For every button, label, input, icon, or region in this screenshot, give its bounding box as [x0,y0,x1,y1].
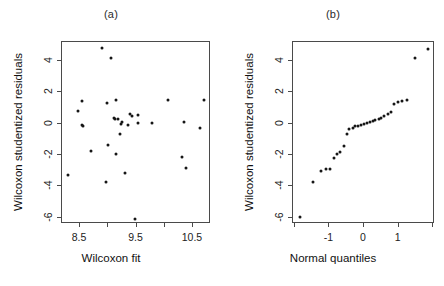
data-point [137,114,140,117]
x-tick [363,223,364,227]
panel-b-plot-frame [292,41,434,223]
x-tick [136,223,137,227]
y-tick [57,91,61,92]
panel-b-label: (b) [222,8,444,20]
y-tick [288,185,292,186]
panel-b-plot-area [293,42,433,222]
data-point [203,99,206,102]
data-point [67,173,70,176]
data-point [136,121,139,124]
data-point [116,117,119,120]
y-tick-label: -4 [273,181,285,190]
data-point [405,99,408,102]
data-point [82,125,85,128]
data-point [401,99,404,102]
x-tick-minor [164,223,165,227]
y-tick [57,123,61,124]
data-point [339,150,342,153]
y-tick [288,60,292,61]
x-tick-minor [432,223,433,227]
y-tick [288,217,292,218]
panel-a-xlabel: Wilcoxon fit [0,252,222,264]
data-point [332,156,335,159]
y-tick-label: -6 [273,212,285,221]
y-tick [288,123,292,124]
y-tick [57,185,61,186]
panel-a-ylabel: Wilcoxon studentized residuals [12,53,24,211]
data-point [393,102,396,105]
data-point [185,167,188,170]
y-tick [57,60,61,61]
data-point [115,153,118,156]
data-point [130,115,133,118]
data-point [320,170,323,173]
y-tick-label: 0 [42,120,54,126]
data-point [127,124,130,127]
data-point [335,152,338,155]
x-tick [328,223,329,227]
data-point [298,215,301,218]
data-point [342,144,345,147]
y-tick [57,154,61,155]
x-tick-label: 9.5 [128,231,143,243]
panel-residuals-vs-fit: (a) Wilcoxon studentized residuals Wilco… [0,0,222,286]
panel-a-label: (a) [0,8,222,20]
y-tick [288,91,292,92]
data-point [124,172,127,175]
y-tick-label: -4 [42,181,54,190]
data-point [166,99,169,102]
panel-b-xlabel: Normal quantiles [222,252,444,264]
data-point [90,149,93,152]
x-tick-minor [107,223,108,227]
x-tick-label: 10.5 [182,231,202,243]
data-point [345,133,348,136]
data-point [311,180,314,183]
panel-a-plot-area [62,42,209,222]
data-point [100,46,103,49]
x-tick-label: 0 [360,231,366,243]
panel-a-plot-frame [61,41,210,223]
data-point [121,121,124,124]
data-point [118,132,121,135]
x-tick-label: 8.5 [72,231,87,243]
data-point [182,120,185,123]
data-point [386,113,389,116]
x-tick [79,223,80,227]
y-tick-label: -2 [42,149,54,158]
data-point [106,102,109,105]
y-tick-label: -6 [42,212,54,221]
y-tick-label: 0 [273,120,285,126]
data-point [151,122,154,125]
y-tick-label: 4 [273,57,285,63]
data-point [105,181,108,184]
x-tick [398,223,399,227]
y-tick [57,217,61,218]
y-tick [288,154,292,155]
panel-normal-qq: (b) Wilcoxon studentized residuals Norma… [222,0,444,286]
x-tick-minor [294,223,295,227]
data-point [109,57,112,60]
y-tick-label: 2 [42,88,54,94]
x-tick [192,223,193,227]
data-point [180,156,183,159]
data-point [324,168,327,171]
data-point [390,110,393,113]
x-tick-label: -1 [324,231,333,243]
y-tick-label: 2 [273,88,285,94]
figure-canvas: (a) Wilcoxon studentized residuals Wilco… [0,0,444,286]
y-tick-label: 4 [42,57,54,63]
data-point [414,57,417,60]
data-point [80,100,83,103]
data-point [427,47,430,50]
data-point [134,217,137,220]
panel-b-ylabel: Wilcoxon studentized residuals [243,53,255,211]
data-point [328,168,331,171]
data-point [77,109,80,112]
data-point [107,144,110,147]
data-point [114,99,117,102]
data-point [397,100,400,103]
y-tick-label: -2 [273,149,285,158]
x-tick-label: 1 [395,231,401,243]
data-point [198,127,201,130]
